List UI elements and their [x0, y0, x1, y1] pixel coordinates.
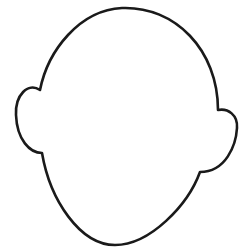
- head-outline-drawing: [0, 0, 249, 252]
- head-outline: [16, 8, 237, 245]
